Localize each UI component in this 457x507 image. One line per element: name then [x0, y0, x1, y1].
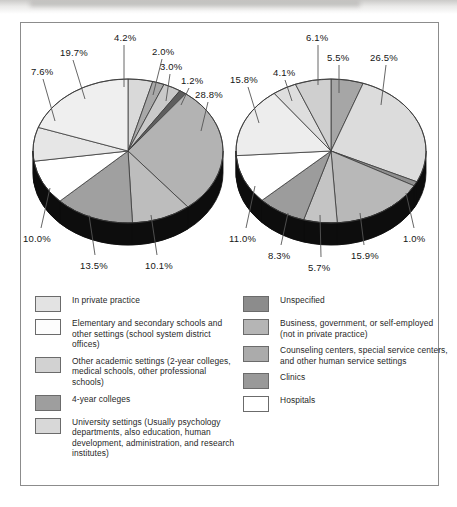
legend-swatch: [243, 296, 269, 312]
percentage-label: 2.0%: [152, 47, 174, 57]
legend-item: Elementary and secondary schools and oth…: [35, 318, 243, 350]
legend-label: Elementary and secondary schools and oth…: [72, 318, 240, 350]
percentage-label: 15.8%: [230, 75, 258, 85]
percentage-label: 1.0%: [403, 234, 425, 244]
legend-item: Unspecified: [243, 295, 451, 312]
percentage-label: 4.1%: [273, 68, 295, 78]
legend-item: Business, government, or self-employed (…: [243, 318, 451, 339]
charts-area: 4.2%2.0%3.0%1.2%28.8%19.7%7.6%10.0%13.5%…: [21, 23, 440, 291]
percentage-label: 1.2%: [181, 76, 203, 86]
right-pie-chart: 6.1%5.5%26.5%4.1%15.8%11.0%8.3%5.7%15.9%…: [226, 23, 436, 291]
legend-item: Other academic settings (2-year colleges…: [35, 356, 243, 388]
legend-item: 4-year colleges: [35, 394, 243, 411]
legend-label: Hospitals: [280, 395, 315, 406]
legend-item: Counseling centers, special service cent…: [243, 345, 451, 366]
legend-swatch: [35, 395, 61, 411]
legend-swatch: [243, 373, 269, 389]
percentage-label: 3.0%: [160, 62, 182, 72]
legend-label: Unspecified: [280, 295, 325, 306]
percentage-label: 4.2%: [114, 33, 136, 43]
percentage-label: 26.5%: [370, 53, 398, 63]
percentage-label: 28.8%: [195, 90, 223, 100]
legend-swatch: [35, 319, 61, 335]
percentage-label: 5.7%: [308, 263, 330, 273]
percentage-label: 15.9%: [351, 251, 379, 261]
legend-item: Hospitals: [243, 395, 451, 412]
legend-item: University settings (Usually psychology …: [35, 417, 243, 459]
right-pie-svg: [226, 23, 436, 291]
legend-label: In private practice: [72, 295, 140, 306]
percentage-label: 8.3%: [268, 251, 290, 261]
legend-column-right: UnspecifiedBusiness, government, or self…: [243, 295, 451, 418]
percentage-label: 10.0%: [23, 234, 51, 244]
percentage-label: 10.1%: [145, 261, 173, 271]
legend-swatch: [243, 346, 269, 362]
percentage-label: 7.6%: [31, 67, 53, 77]
figure-frame: 4.2%2.0%3.0%1.2%28.8%19.7%7.6%10.0%13.5%…: [20, 22, 439, 486]
legend-item: In private practice: [35, 295, 243, 312]
legend-swatch: [243, 319, 269, 335]
left-pie-chart: 4.2%2.0%3.0%1.2%28.8%19.7%7.6%10.0%13.5%…: [23, 23, 233, 291]
legend-label: Other academic settings (2-year colleges…: [72, 356, 240, 388]
legend-swatch: [243, 396, 269, 412]
percentage-label: 5.5%: [327, 53, 349, 63]
legend-swatch: [35, 357, 61, 373]
legend-label: Business, government, or self-employed (…: [280, 318, 448, 339]
percentage-label: 6.1%: [306, 33, 328, 43]
legend-label: 4-year colleges: [72, 394, 130, 405]
scan-artifact-band: [0, 0, 457, 14]
legend-swatch: [35, 296, 61, 312]
left-pie-svg: [23, 23, 233, 291]
legend-label: Counseling centers, special service cent…: [280, 345, 448, 366]
percentage-label: 13.5%: [80, 261, 108, 271]
percentage-label: 11.0%: [229, 234, 256, 244]
legend-column-left: In private practiceElementary and second…: [35, 295, 243, 465]
legend-label: Clinics: [280, 372, 305, 383]
legend-item: Clinics: [243, 372, 451, 389]
percentage-label: 19.7%: [60, 48, 88, 58]
legend-label: University settings (Usually psychology …: [72, 417, 240, 459]
legend: In private practiceElementary and second…: [21, 295, 440, 485]
legend-swatch: [35, 418, 61, 434]
